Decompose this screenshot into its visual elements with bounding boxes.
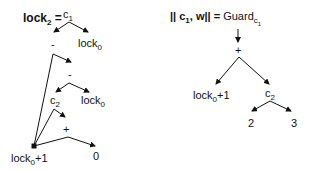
edge-c2-shared (34, 109, 54, 146)
guard-label: Guard (223, 10, 254, 22)
node-lock0-plus1: lock0+1 (11, 153, 48, 164)
node-zero: 0 (93, 151, 99, 162)
node-plus-right: + (235, 45, 241, 56)
node-lock0-b: lock0 (81, 95, 105, 106)
edge-plus-shared (34, 137, 68, 146)
node-two: 2 (248, 118, 254, 129)
node-c1: c1 (63, 9, 73, 20)
edge-minus2-c2 (56, 83, 69, 92)
node-minus1: - (51, 39, 55, 50)
edge-plus-lock0plus1 (216, 57, 239, 84)
node-minus2: - (68, 69, 72, 80)
node-lock0-a: lock0 (78, 38, 102, 49)
node-three: 3 (291, 118, 297, 129)
edge-minus1-minus2 (53, 54, 71, 62)
shared-node-dot (32, 144, 37, 149)
right-title: || c1, w|| = Guardc1 (170, 11, 261, 24)
edge-plus-c2 (239, 57, 269, 84)
node-lock0-plus1-right: lock0+1 (193, 90, 230, 101)
node-c2-right: c2 (265, 88, 275, 99)
node-c2: c2 (50, 95, 60, 106)
edge-c1-lock0 (69, 22, 88, 32)
edge-minus2-lock0 (69, 83, 89, 92)
node-plus: + (63, 124, 69, 135)
guard-subscript: c1 (254, 16, 261, 25)
edge-c2-two (252, 101, 270, 111)
edge-c2-plus (54, 109, 65, 117)
edge-plus-zero (68, 137, 95, 146)
edge-c2-three (270, 101, 291, 111)
left-title: lock2 = (23, 12, 62, 24)
